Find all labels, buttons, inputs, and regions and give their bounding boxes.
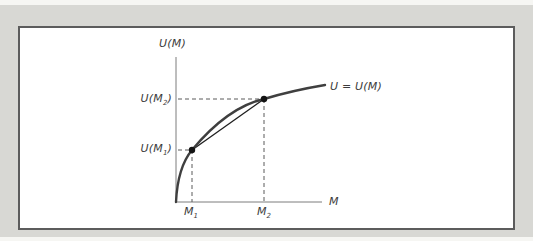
y-axis-title: U(M) <box>159 37 186 50</box>
x-tick-label-m2: M2 <box>252 205 276 218</box>
figure-frame: U(M) U = U(M) U(M2) U(M1) M1 M2 M <box>0 5 533 237</box>
y-value-label-um2: U(M2) <box>118 92 172 105</box>
y-value-label-um1: U(M1) <box>118 142 172 155</box>
utility-curve <box>176 85 325 202</box>
chord-line <box>192 99 264 150</box>
data-point-m2 <box>261 96 267 102</box>
utility-diagram-svg <box>20 28 513 228</box>
plot-panel: U(M) U = U(M) U(M2) U(M1) M1 M2 M <box>18 26 515 230</box>
data-point-m1 <box>189 147 195 153</box>
x-tick-label-m1: M1 <box>179 205 203 218</box>
x-axis-title: M <box>329 195 339 208</box>
curve-label: U = U(M) <box>330 80 382 93</box>
